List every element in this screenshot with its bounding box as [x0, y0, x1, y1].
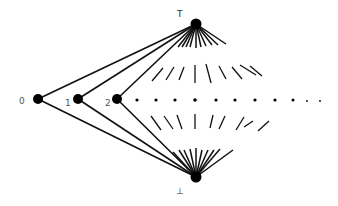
- ellipsis-dot: [273, 98, 276, 101]
- node-label-1: 1: [65, 98, 71, 108]
- edge-0-top: [38, 24, 196, 99]
- ellipsis-dot: [306, 100, 308, 102]
- node-label-0: 0: [19, 96, 25, 106]
- top-node: [191, 19, 202, 30]
- node-label-2: 2: [105, 98, 111, 108]
- edge-dash: [244, 121, 253, 127]
- edge-2-bottom: [117, 99, 196, 177]
- edge-dash: [240, 65, 256, 75]
- edge-dash: [206, 64, 211, 83]
- ellipsis-dot: [154, 98, 157, 101]
- edge-dash: [179, 67, 184, 80]
- edge-dash: [232, 67, 242, 79]
- edge-0-bottom: [38, 99, 196, 177]
- ellipsis-dot: [214, 98, 217, 101]
- edge-dash: [152, 68, 163, 81]
- edge-dash: [210, 115, 213, 128]
- edge-1-bottom: [78, 99, 196, 177]
- edge-2-top: [117, 24, 196, 99]
- ellipsis-dot: [173, 98, 176, 101]
- edge-dash: [151, 116, 161, 130]
- fan-edges: [173, 24, 233, 177]
- node-1: [73, 94, 83, 104]
- edge-dash: [177, 115, 182, 129]
- ellipsis-dot: [253, 98, 256, 101]
- bottom-element-label: ⊥: [176, 186, 184, 196]
- ellipsis-dot: [193, 98, 197, 102]
- partial-edge-dashes: [151, 64, 269, 131]
- ellipsis-dot: [135, 98, 138, 101]
- edge-1-top: [78, 24, 196, 99]
- ellipsis-dot: [233, 98, 236, 101]
- node-0: [33, 94, 43, 104]
- edge-dash: [258, 121, 269, 131]
- ellipsis-dot: [292, 99, 295, 102]
- ellipsis-dots: [135, 98, 321, 102]
- node-2: [112, 94, 122, 104]
- edge-dash: [236, 117, 244, 130]
- lattice-diagram: T ⊥ 0 1 2: [0, 0, 338, 206]
- top-element-label: T: [176, 9, 183, 19]
- edge-dash: [219, 116, 225, 129]
- edge-dash: [166, 67, 174, 80]
- ellipsis-dot: [319, 100, 321, 102]
- edge-dash: [219, 66, 226, 79]
- edge-dash: [164, 116, 173, 129]
- bottom-node: [191, 172, 202, 183]
